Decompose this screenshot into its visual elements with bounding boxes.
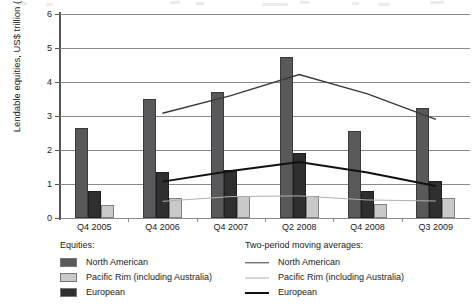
moving-average-line-pr [163, 196, 436, 201]
legend-line-item[interactable]: European [245, 285, 404, 300]
cropped-artifact-strip [0, 0, 474, 10]
moving-average-line-na [163, 75, 436, 120]
chart-container: Lendable equities, US$ trillion (1012) 0… [0, 0, 474, 308]
legend-bar-item[interactable]: North American [60, 255, 212, 270]
y-tick-label: 5 [30, 43, 52, 53]
y-tick-label: 3 [30, 111, 52, 121]
y-tick-label: 0 [30, 213, 52, 223]
y-tick-label: 1 [30, 179, 52, 189]
x-tick-mark [265, 218, 266, 222]
legend-bar-label: Pacific Rim (including Australia) [86, 273, 212, 282]
x-axis-label: Q4 2005 [77, 222, 112, 232]
x-tick-mark [128, 218, 129, 222]
x-axis-label: Q4 2006 [145, 222, 180, 232]
legend-lines: Two-period moving averages: North Americ… [245, 240, 404, 300]
x-tick-mark [333, 218, 334, 222]
y-tick-label: 4 [30, 77, 52, 87]
x-axis-label: Q2 2008 [282, 222, 317, 232]
y-tick-label: 2 [30, 145, 52, 155]
legend-line-item[interactable]: North American [245, 255, 404, 270]
x-axis-label: Q4 2007 [214, 222, 249, 232]
y-axis-title: Lendable equities, US$ trillion (1012) [10, 0, 22, 156]
moving-average-lines [60, 14, 470, 218]
legend-bar-label: North American [86, 258, 148, 267]
legend-line-label: North American [278, 258, 340, 267]
y-axis-title-main: Lendable equities, US$ trillion (10 [11, 0, 22, 132]
moving-average-line-eu [163, 162, 436, 186]
legend-line-label: Pacific Rim (including Australia) [278, 273, 404, 282]
legend-bar-label: European [86, 288, 125, 297]
x-axis-label: Q3 2009 [419, 222, 454, 232]
y-tick-label: 6 [30, 9, 52, 19]
x-tick-mark [197, 218, 198, 222]
x-tick-mark [402, 218, 403, 222]
legend-line-pr-icon [245, 273, 269, 282]
legend-swatch-eu-icon [60, 288, 77, 297]
legend-swatch-na-icon [60, 258, 77, 267]
legend-swatch-pr-icon [60, 273, 77, 282]
legend-bars: Equities: North AmericanPacific Rim (inc… [60, 240, 212, 300]
legend-bars-title: Equities: [60, 240, 212, 250]
legend-line-item[interactable]: Pacific Rim (including Australia) [245, 270, 404, 285]
legend-lines-title: Two-period moving averages: [245, 240, 404, 250]
legend-line-eu-icon [245, 288, 269, 297]
legend-line-label: European [278, 288, 317, 297]
legend-line-na-icon [245, 258, 269, 267]
x-axis-label: Q4 2008 [350, 222, 385, 232]
plot-area [60, 14, 470, 218]
legend-bar-item[interactable]: European [60, 285, 212, 300]
legend-bar-item[interactable]: Pacific Rim (including Australia) [60, 270, 212, 285]
